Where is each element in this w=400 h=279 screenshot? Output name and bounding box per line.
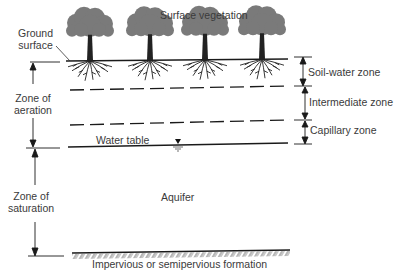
tree-icon xyxy=(66,7,114,81)
ground-surface-pointer xyxy=(56,46,70,61)
zone-of-saturation-line2: saturation xyxy=(8,202,54,214)
zone-of-aeration-line2: aeration xyxy=(14,104,52,116)
dashed-line-capillary-top xyxy=(70,120,290,125)
soil-water-zone-label: Soil-water zone xyxy=(308,66,380,78)
groundwater-zones-diagram xyxy=(0,0,400,279)
zone-of-saturation-line1: Zone of xyxy=(8,190,54,202)
intermediate-zone-label: Intermediate zone xyxy=(309,96,393,108)
surface-vegetation-label: Surface vegetation xyxy=(160,9,248,21)
zone-of-saturation-label: Zone of saturation xyxy=(8,190,54,214)
zone-of-aeration-line1: Zone of xyxy=(14,92,52,104)
ground-surface-label: Ground surface xyxy=(18,27,53,51)
aquifer-label: Aquifer xyxy=(161,191,194,203)
ground-surface-label-line2: surface xyxy=(18,39,53,51)
formation-label: Impervious or semipervious formation xyxy=(92,258,267,270)
water-table-label: Water table xyxy=(96,134,149,146)
capillary-zone-label: Capillary zone xyxy=(310,124,377,136)
zone-of-aeration-label: Zone of aeration xyxy=(14,92,52,116)
ground-surface-label-line1: Ground xyxy=(18,27,53,39)
dashed-line-intermediate-top xyxy=(70,86,290,90)
